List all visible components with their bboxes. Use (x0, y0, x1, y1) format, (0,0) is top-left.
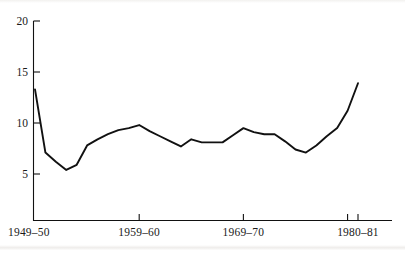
figure-container: 5101520 1949–501959–601969–701980–81 (0, 0, 405, 254)
line-chart: 5101520 1949–501959–601969–701980–81 (0, 0, 405, 254)
y-tick-label-20: 20 (17, 15, 29, 27)
y-tick-label-15: 15 (17, 66, 29, 78)
data-line-series-1 (35, 83, 358, 170)
y-tick-label-10: 10 (17, 117, 29, 129)
y-tick-label-group: 5101520 (17, 15, 29, 180)
x-tick-label-1969–70: 1969–70 (223, 226, 265, 238)
x-tick-label-1949–50: 1949–50 (8, 226, 50, 238)
scan-edge-bottom (0, 245, 405, 254)
y-tick-label-5: 5 (22, 168, 28, 180)
scan-edge-top (0, 0, 405, 3)
x-tick-label-1980–81: 1980–81 (337, 226, 379, 238)
x-tick-label-group: 1949–501959–601969–701980–81 (8, 226, 379, 238)
x-tick-label-1959–60: 1959–60 (118, 226, 160, 238)
x-tick-group (139, 214, 358, 221)
